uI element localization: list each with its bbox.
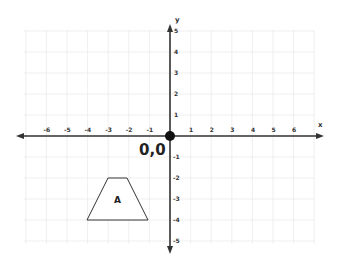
y-tick-label: 5 <box>174 27 178 34</box>
y-axis-name: y <box>175 16 180 24</box>
y-tick-label: -5 <box>173 237 180 244</box>
y-tick-label: -2 <box>173 174 180 181</box>
x-tick-label: -3 <box>105 126 112 133</box>
x-tick-label: 4 <box>251 126 255 133</box>
y-tick-label: -1 <box>173 153 180 160</box>
x-tick-label: 1 <box>189 126 193 133</box>
x-axis-right-arrow-icon <box>316 133 324 139</box>
x-tick-label: -5 <box>64 126 71 133</box>
x-axis-name: x <box>318 121 323 129</box>
origin-dot <box>165 131 175 141</box>
y-tick-label: 4 <box>174 48 178 55</box>
y-axis-down-arrow-icon <box>167 246 173 254</box>
x-tick-label: -4 <box>85 126 92 133</box>
x-tick-label: 3 <box>230 126 234 133</box>
y-axis-up-arrow-icon <box>167 24 173 32</box>
x-tick-label: 2 <box>210 126 214 133</box>
y-tick-label: 2 <box>174 90 178 97</box>
shape-a-label: A <box>114 195 121 205</box>
x-tick-label: 5 <box>272 126 276 133</box>
origin-label: 0,0 <box>139 141 166 159</box>
y-tick-label: 1 <box>174 111 178 118</box>
coordinate-plane: x y -6-5-4-3-2-1123456 54321-1-2-3-4-5 0… <box>0 0 340 267</box>
x-tick-label: -2 <box>126 126 133 133</box>
x-tick-label: -6 <box>43 126 50 133</box>
y-tick-label: -3 <box>173 195 180 202</box>
y-tick-label: 3 <box>174 69 178 76</box>
y-tick-label: -4 <box>173 216 180 223</box>
x-tick-label: 6 <box>292 126 296 133</box>
x-tick-label: -1 <box>146 126 153 133</box>
x-axis-left-arrow-icon <box>16 133 24 139</box>
